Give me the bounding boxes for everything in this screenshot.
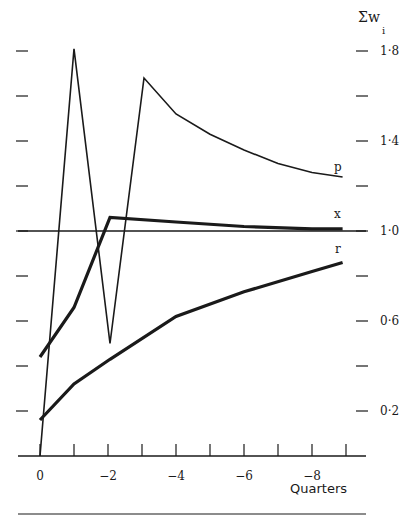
series-label-r: r xyxy=(335,242,341,256)
y-tick-label: 1·0 xyxy=(380,224,399,238)
x-axis-tick-labels: 0−2−4−6−8 xyxy=(36,469,321,483)
chart-canvas: 1·81·41·00·60·2 0−2−4−6−8 Σw i p x r Qua… xyxy=(0,0,410,522)
x-axis xyxy=(18,444,366,456)
x-axis-title: Quarters xyxy=(290,481,347,496)
series-line-x xyxy=(40,218,343,358)
series-label-p: p xyxy=(334,160,342,174)
y-axis-title-subscript: i xyxy=(382,25,385,36)
series-lines xyxy=(40,49,343,456)
series-label-x: x xyxy=(334,207,341,221)
x-tick-label: −4 xyxy=(167,469,185,483)
y-tick-label: 0·2 xyxy=(380,404,399,418)
right-axis-tick-labels: 1·81·41·00·60·2 xyxy=(380,44,399,418)
series-line-r xyxy=(40,263,343,421)
y-tick-label: 0·6 xyxy=(380,314,399,328)
y-tick-label: 1·8 xyxy=(380,44,399,58)
series-line-p xyxy=(40,49,343,456)
y-tick-label: 1·4 xyxy=(380,134,399,148)
x-tick-label: 0 xyxy=(36,469,44,483)
x-tick-label: −6 xyxy=(235,469,253,483)
y-axis-title-main: Σw xyxy=(358,9,380,25)
x-tick-label: −2 xyxy=(99,469,117,483)
y-axis-title: Σw xyxy=(358,9,380,25)
